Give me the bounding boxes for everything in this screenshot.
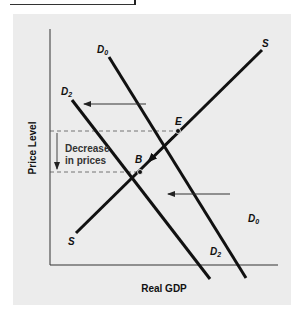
d0-top-label: D0 — [97, 44, 108, 56]
point-e-label: E — [175, 116, 182, 127]
point-e-marker — [176, 129, 181, 134]
demand-curve-d0 — [109, 57, 246, 278]
x-axis-label: Real GDP — [141, 283, 187, 294]
demand-curve-d2 — [72, 100, 210, 279]
point-b-label: B — [135, 154, 142, 165]
chart-svg: S S D0 D0 D2 D2 E B Decrease in prices R… — [0, 0, 299, 315]
decrease-note-line2: in prices — [65, 155, 107, 166]
s-bottom-label: S — [68, 236, 75, 247]
d0-bottom-label: D0 — [248, 213, 259, 225]
d2-bottom-label: D2 — [210, 246, 221, 258]
point-b-marker — [138, 170, 143, 175]
s-top-label: S — [262, 38, 269, 49]
decrease-note-line1: Decrease — [65, 143, 110, 154]
d2-top-label: D2 — [61, 86, 72, 98]
y-axis-label: Price Level — [27, 121, 38, 174]
